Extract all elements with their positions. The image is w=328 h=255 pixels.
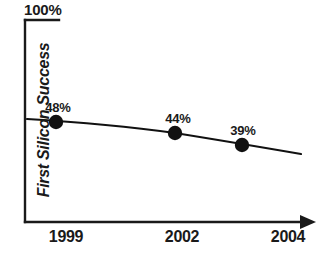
data-point-marker bbox=[235, 138, 249, 152]
y-axis-max-label: 100% bbox=[24, 2, 62, 17]
data-point-label: 44% bbox=[165, 112, 190, 125]
trend-line bbox=[27, 119, 301, 154]
data-point-label: 39% bbox=[230, 124, 255, 137]
x-axis-arrow-icon bbox=[300, 215, 316, 229]
x-axis-tick-label-1999: 1999 bbox=[49, 229, 83, 245]
y-axis-title: First Silicon Success bbox=[36, 30, 52, 210]
data-point-marker bbox=[168, 126, 182, 140]
x-axis-tick-label-2004: 2004 bbox=[271, 229, 305, 245]
chart-container: 100% First Silicon Success 48% 44% 39% 1… bbox=[0, 0, 328, 255]
x-axis-tick-label-2002: 2002 bbox=[165, 229, 199, 245]
data-point-label: 48% bbox=[45, 101, 70, 114]
